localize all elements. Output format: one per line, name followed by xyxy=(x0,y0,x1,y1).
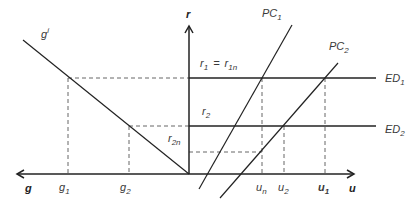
pc2-line xyxy=(220,63,338,198)
g-axis-label: g xyxy=(24,182,32,194)
gi-line xyxy=(23,40,189,174)
g2-tick-label: g2 xyxy=(120,181,131,196)
u-axis-label: u xyxy=(349,182,356,194)
gi-label: gi xyxy=(41,26,49,40)
pc2-label: PC2 xyxy=(329,40,349,55)
un-tick-label: un xyxy=(256,181,267,196)
r2n-label: r2n xyxy=(168,132,181,147)
ed2-label: ED2 xyxy=(385,123,405,138)
macro-diagram: r u g gi PC1 PC2 ED1 ED2 r1=r1n r2 r2n g… xyxy=(0,0,418,207)
r1-equals-r1n-label: r1=r1n xyxy=(200,57,238,72)
pc1-label: PC1 xyxy=(262,7,282,22)
pc1-line xyxy=(199,25,292,189)
g1-tick-label: g1 xyxy=(59,181,70,196)
r2-label: r2 xyxy=(202,105,211,120)
r-axis-label: r xyxy=(186,8,191,20)
u2-tick-label: u2 xyxy=(278,181,289,196)
ed1-label: ED1 xyxy=(385,72,405,87)
u1-tick-label: u1 xyxy=(318,181,330,196)
